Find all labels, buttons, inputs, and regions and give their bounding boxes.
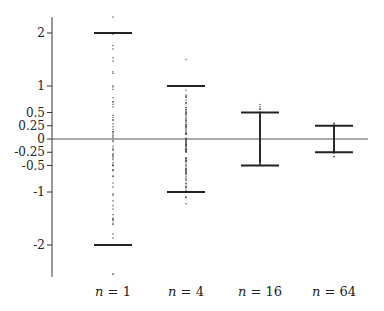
y-tick-label: -1	[33, 185, 45, 199]
y-axis: 210.50.250-0.25-0.5-1-2	[14, 17, 52, 277]
y-tick-label: 0.5	[26, 106, 45, 120]
y-tick-label: 1	[37, 79, 45, 93]
y-tick-label: -0.25	[14, 145, 45, 159]
column-64	[315, 123, 353, 158]
y-tick-label: -0.5	[22, 159, 45, 173]
y-tick-label: 0.25	[18, 119, 45, 133]
column-1	[94, 17, 132, 275]
y-tick-label: 0	[37, 132, 45, 146]
x-category-label: n = 4	[168, 284, 204, 299]
column-16	[241, 104, 279, 166]
y-tick-label: 2	[37, 26, 45, 40]
x-category-label: n = 64	[312, 284, 356, 299]
x-axis-labels: n = 1n = 4n = 16n = 64	[95, 284, 356, 299]
y-tick-label: -2	[33, 238, 45, 252]
x-category-label: n = 16	[238, 284, 282, 299]
chart-canvas: 210.50.250-0.25-0.5-1-2 n = 1n = 4n = 16…	[0, 0, 384, 311]
columns	[94, 17, 353, 275]
column-4	[167, 59, 205, 204]
x-category-label: n = 1	[95, 284, 131, 299]
